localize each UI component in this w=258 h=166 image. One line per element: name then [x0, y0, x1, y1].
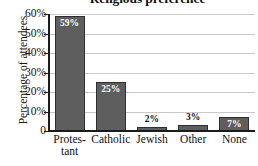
x-axis-tick-labels: Protes- tantCatholicJewishOtherNone	[49, 134, 255, 164]
x-axis-tick-label: Protes- tant	[49, 134, 90, 157]
bar-value-label: 7%	[220, 120, 248, 130]
y-axis-tick-labels: 60%50%40%30%20%10%0	[0, 14, 46, 131]
y-axis-tick-label: 20%	[0, 86, 46, 98]
y-axis-tick-mark	[44, 92, 48, 93]
bar[interactable]: 59%	[55, 16, 85, 131]
bar-slot: 59%	[49, 14, 90, 131]
plot-area: 59%25%2%3%7%	[49, 14, 255, 131]
y-axis-tick-label: 50%	[0, 28, 46, 40]
bar-value-label: 2%	[145, 115, 159, 125]
chart-title: Religious preference	[40, 0, 255, 7]
x-axis-tick-label: Jewish	[131, 134, 172, 146]
y-axis-tick-label: 40%	[0, 47, 46, 59]
x-axis-line	[49, 130, 255, 132]
y-axis-tick-mark	[44, 34, 48, 35]
bar-chart: Religious preference Percentage of atten…	[0, 0, 258, 166]
y-axis-tick-label: 30%	[0, 67, 46, 79]
bar-slot: 25%	[90, 14, 131, 131]
bar-slot: 7%	[214, 14, 255, 131]
y-axis-tick-mark	[44, 14, 48, 15]
y-axis-tick-label: 60%	[0, 8, 46, 20]
x-axis-tick-label: None	[214, 134, 255, 146]
bar[interactable]: 7%	[219, 117, 249, 131]
x-axis-tick-label: Catholic	[90, 134, 131, 146]
bar-value-label: 3%	[186, 113, 200, 123]
x-axis-tick-label: Other	[173, 134, 214, 146]
y-axis-tick-mark	[44, 73, 48, 74]
y-axis-tick-mark	[44, 53, 48, 54]
bar-value-label: 25%	[97, 85, 125, 95]
y-axis-tick-mark	[44, 112, 48, 113]
y-axis-tick-mark	[44, 131, 48, 132]
bar-slot: 3%	[173, 14, 214, 131]
y-axis-tick-label: 0	[0, 125, 46, 137]
bar[interactable]: 25%	[96, 82, 126, 131]
y-axis-line	[48, 14, 50, 132]
bar-value-label: 59%	[56, 19, 84, 29]
bar-slot: 2%	[131, 14, 172, 131]
y-axis-tick-label: 10%	[0, 106, 46, 118]
